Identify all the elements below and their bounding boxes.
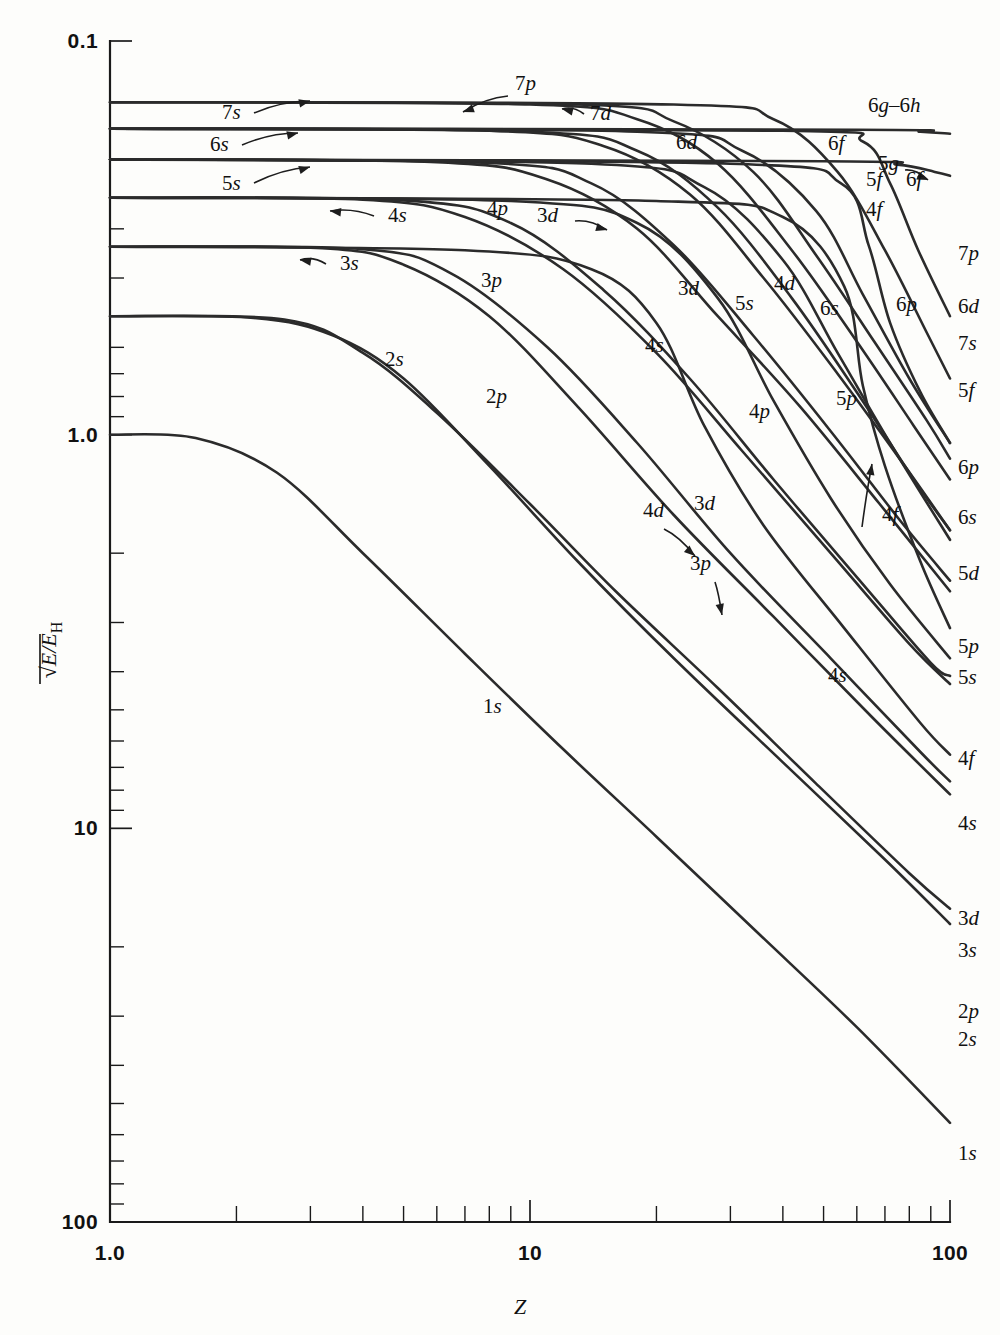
orbital-label: 7p (515, 71, 536, 95)
orbital-label: 6s (210, 132, 229, 156)
orbital-label: 4d (774, 271, 796, 295)
orbital-label: 3s (340, 251, 359, 275)
chart-svg: 0.11.0101001.010100Z√E/EH7s6s5s4s3s7p7d3… (0, 0, 1000, 1335)
orbital-label: 3p (690, 551, 711, 575)
orbital-label: 1s (958, 1141, 977, 1165)
orbital-label: 7s (958, 331, 977, 355)
leader-arrow (242, 131, 298, 145)
y-axis-title: √E/EH (36, 621, 65, 684)
leader-arrow (330, 208, 374, 216)
orbital-label: 4s (388, 203, 407, 227)
orbital-label: 2s (958, 1027, 977, 1051)
leader-arrow (562, 107, 584, 115)
orbital-label: 2s (385, 347, 404, 371)
orbital-label: 4d (643, 498, 665, 522)
orbital-label: 2p (486, 384, 507, 408)
curve-5d (110, 160, 950, 540)
orbital-label: 5d (958, 561, 980, 585)
y-tick-label: 1.0 (68, 423, 98, 446)
x-axis-title: Z (514, 1294, 527, 1319)
leader-arrow (575, 221, 607, 231)
orbital-label: 6p (896, 292, 917, 316)
orbital-label: 5s (222, 171, 241, 195)
curve-2s (110, 316, 950, 924)
leader-arrow (254, 166, 310, 183)
orbital-label: 4f (866, 197, 886, 221)
curve-4f (110, 198, 950, 628)
axes: 0.11.0101001.010100 (62, 29, 968, 1264)
x-tick-label: 100 (932, 1241, 968, 1264)
orbital-label: 3d (537, 203, 559, 227)
orbital-label: 7d (590, 101, 612, 125)
orbital-label: 3p (481, 268, 502, 292)
orbital-label: 5p (958, 634, 979, 658)
orbital-label: 7s (222, 100, 241, 124)
y-tick-label: 0.1 (68, 29, 98, 52)
orbital-label: 4p (487, 196, 508, 220)
orbital-label: 6s (820, 296, 839, 320)
orbital-label: 5s (958, 665, 977, 689)
orbital-label: 6p (958, 455, 979, 479)
curve-5s (110, 160, 950, 592)
leader-arrow (715, 582, 724, 615)
orbital-label: 2p (958, 999, 979, 1023)
orbital-label: 6d (958, 294, 980, 318)
orbital-label: 6s (958, 505, 977, 529)
curve-2p (110, 316, 950, 909)
orbital-label: 6g–6h (868, 93, 921, 117)
orbital-label: 7p (958, 241, 979, 265)
orbital-label: 6d (676, 130, 698, 154)
curve-7d (110, 102, 950, 378)
orbital-label: 6f (828, 131, 848, 155)
orbital-label: 4f (958, 746, 978, 770)
orbital-label: 3s (958, 938, 977, 962)
x-tick-label: 10 (518, 1241, 542, 1264)
orbital-label: 4s (958, 811, 977, 835)
orbital-label: 4s (828, 663, 847, 687)
orbital-label: 3d (678, 276, 700, 300)
curve-4s (110, 198, 950, 684)
leader-arrow (300, 258, 326, 266)
curve-3d (110, 247, 950, 755)
orbital-label: 3d (694, 491, 716, 515)
orbital-label: 5p (836, 386, 857, 410)
orbital-label: 5f (958, 378, 978, 402)
orbital-label: 3d (958, 906, 980, 930)
orbital-label: 4p (749, 399, 770, 423)
curves (110, 102, 950, 1123)
orbital-label: 4s (645, 333, 664, 357)
orbital-label: 5s (735, 291, 754, 315)
orbital-energy-chart: 0.11.0101001.010100Z√E/EH7s6s5s4s3s7p7d3… (0, 0, 1000, 1335)
axis-lines (110, 41, 950, 1222)
x-tick-label: 1.0 (95, 1241, 125, 1264)
orbital-label: 1s (483, 694, 502, 718)
y-tick-label: 100 (62, 1210, 98, 1233)
y-tick-label: 10 (74, 816, 98, 839)
